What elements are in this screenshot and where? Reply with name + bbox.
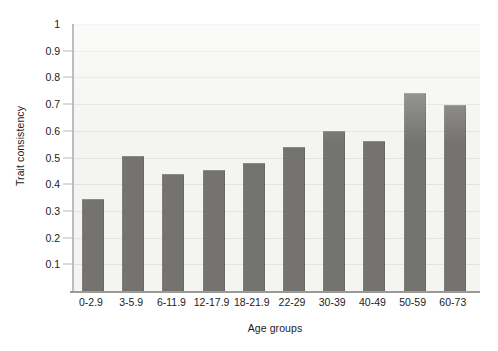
bar bbox=[363, 141, 385, 291]
bar-chart-figure: Trait consistency 0.10.20.30.40.50.60.70… bbox=[0, 0, 498, 351]
x-axis-tick-label: 18-21.9 bbox=[234, 297, 270, 308]
x-axis-tick-label: 50-59 bbox=[399, 297, 426, 308]
bar-series bbox=[74, 24, 480, 291]
bar bbox=[323, 131, 345, 291]
bar bbox=[444, 105, 466, 291]
x-axis-tick-label: 3-5.9 bbox=[119, 297, 143, 308]
x-axis-tick-label: 22-29 bbox=[279, 297, 306, 308]
x-axis-tick-label: 0-2.9 bbox=[79, 297, 103, 308]
y-axis-tick-label: 0.8 bbox=[45, 72, 60, 83]
y-axis-tick-label: 0.7 bbox=[45, 99, 60, 110]
bar bbox=[283, 147, 305, 291]
bar bbox=[243, 163, 265, 291]
x-axis-tick-label: 60-73 bbox=[439, 297, 466, 308]
x-axis-tick-label: 30-39 bbox=[319, 297, 346, 308]
y-axis-tick-label: 0.2 bbox=[45, 232, 60, 243]
x-axis-tick-label: 12-17.9 bbox=[194, 297, 230, 308]
y-axis-tick-label: 0.9 bbox=[45, 45, 60, 56]
y-axis-tick-mark bbox=[63, 264, 72, 265]
y-axis-tick-mark bbox=[63, 104, 72, 105]
bar bbox=[82, 199, 104, 291]
y-axis-tick-label: 0.1 bbox=[45, 259, 60, 270]
y-axis-tick-mark bbox=[63, 184, 72, 185]
bar bbox=[122, 156, 144, 291]
y-axis-tick-mark bbox=[63, 157, 72, 158]
bar bbox=[162, 174, 184, 291]
y-axis-tick-label: 0.3 bbox=[45, 206, 60, 217]
x-axis-tick-label: 6-11.9 bbox=[157, 297, 186, 308]
y-axis-tick-mark bbox=[63, 210, 72, 211]
bar bbox=[404, 93, 426, 291]
y-axis-tick-mark bbox=[63, 77, 72, 78]
x-axis-tick-label: 40-49 bbox=[359, 297, 386, 308]
y-axis-tick-mark bbox=[63, 237, 72, 238]
y-axis-tick-label: 0.4 bbox=[45, 179, 60, 190]
x-axis-line bbox=[70, 291, 480, 293]
bar bbox=[203, 170, 225, 291]
y-axis-tick-label: 0.5 bbox=[45, 152, 60, 163]
y-axis-tick-label: 0.6 bbox=[45, 126, 60, 137]
plot-area bbox=[72, 24, 480, 291]
x-axis-ticks: 0-2.93-5.96-11.912-17.918-21.922-2930-39… bbox=[0, 297, 498, 317]
y-axis-tick-mark bbox=[63, 130, 72, 131]
x-axis-title: Age groups bbox=[72, 322, 478, 334]
y-axis-tick-label: 1 bbox=[54, 19, 60, 30]
y-axis-tick-mark bbox=[63, 50, 72, 51]
